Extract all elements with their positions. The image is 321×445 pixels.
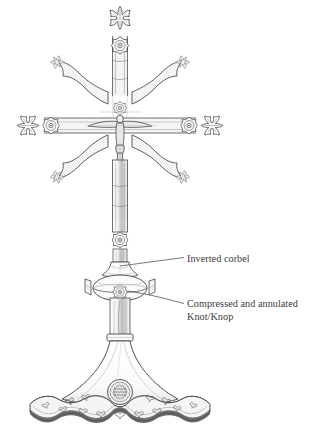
annotation-label-compressed-annulated-knop: Compressed and annulated Knot/Knop (187, 297, 298, 323)
figure-root: Inverted corbel Compressed and annulated… (0, 0, 321, 445)
upper-rosette-group (111, 37, 128, 54)
annotation-text-line: Inverted corbel (187, 252, 250, 265)
knop-rosette (113, 285, 127, 299)
collar-ring (107, 334, 133, 341)
lower-shaft (107, 298, 133, 341)
shaft-rosette-group (112, 232, 128, 248)
upper-shaft (113, 160, 128, 232)
base-medallion (108, 380, 133, 405)
annotation-text-line: Compressed and annulated (187, 297, 298, 310)
right-arm-rosette (181, 117, 198, 134)
annotation-label-inverted-corbel: Inverted corbel (187, 252, 250, 265)
crossing-rosette (113, 101, 126, 114)
processional-cross-illustration (0, 0, 321, 445)
annotation-text-line: Knot/Knop (187, 310, 298, 323)
left-arm-rosette (43, 117, 60, 134)
